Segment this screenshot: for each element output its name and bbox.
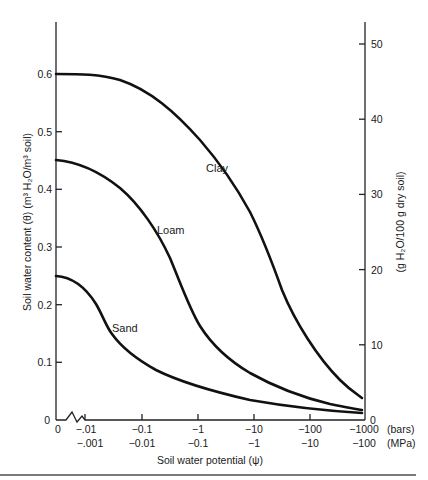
bars-tick-label: 0 [55, 423, 61, 435]
bottom-divider-rule [0, 474, 416, 476]
left-tick-label: 0.2 [37, 299, 52, 311]
x-axis-title: Soil water potential (ψ) [157, 454, 263, 466]
right-tick-label: 10 [371, 339, 383, 351]
x-ticks [85, 414, 310, 420]
mpa-unit-label: (MPa) [387, 437, 416, 449]
left-tick-label: 0.4 [37, 183, 52, 195]
mpa-tick-label: −100 [352, 437, 376, 449]
loam-curve [56, 160, 362, 410]
x-tick-labels-mpa: −.001 −0.01 −0.1 −1 −10 −100 (MPa) [77, 437, 416, 449]
mpa-tick-label: −0.01 [129, 437, 156, 449]
sand-curve [56, 276, 362, 413]
left-tick-label: 0.6 [37, 68, 52, 80]
left-tick-label: 0.5 [37, 126, 52, 138]
mpa-tick-label: −1 [248, 437, 260, 449]
loam-curve-label: Loam [157, 224, 185, 236]
x-tick-labels-bars: 0 −.01 −0.1 −1 −10 −100 −1000 (bars) [55, 423, 414, 435]
bars-tick-label: −100 [298, 423, 322, 435]
left-y-ticks [56, 74, 62, 362]
left-y-axis-title: Soil water content (θ) (m³ H₂O/m³ soil) [21, 133, 33, 311]
right-y-axis-title: (g H₂O/100 g dry soil) [394, 172, 406, 273]
bars-unit-label: (bars) [387, 423, 414, 435]
bars-tick-label: −.01 [76, 423, 97, 435]
mpa-tick-label: −0.1 [188, 437, 209, 449]
soil-water-retention-chart: 0 0.1 0.2 0.3 0.4 0.5 0.6 0 10 20 30 40 … [0, 0, 428, 480]
left-tick-label: 0.3 [37, 241, 52, 253]
mpa-tick-label: −.001 [77, 437, 104, 449]
right-tick-label: 30 [371, 188, 383, 200]
bars-tick-label: −1 [192, 423, 204, 435]
x-axis-with-break [56, 412, 365, 422]
left-y-tick-labels: 0 0.1 0.2 0.3 0.4 0.5 0.6 [37, 68, 52, 426]
sand-curve-label: Sand [112, 322, 138, 334]
right-tick-label: 20 [371, 264, 383, 276]
right-y-ticks [359, 44, 365, 345]
mpa-tick-label: −10 [301, 437, 319, 449]
clay-curve [56, 74, 362, 398]
right-tick-label: 40 [371, 113, 383, 125]
right-tick-label: 50 [371, 38, 383, 50]
left-tick-label: 0 [44, 414, 50, 426]
bars-tick-label: −1000 [349, 423, 379, 435]
clay-curve-label: Clay [206, 162, 229, 174]
right-y-tick-labels: 0 10 20 30 40 50 [370, 38, 383, 426]
left-tick-label: 0.1 [37, 356, 52, 368]
bars-tick-label: −10 [245, 423, 263, 435]
bars-tick-label: −0.1 [132, 423, 153, 435]
